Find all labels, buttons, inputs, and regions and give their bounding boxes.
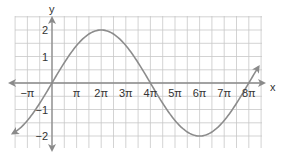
x-axis-label: x	[270, 81, 276, 93]
x-tick-label: 2π	[94, 87, 108, 99]
x-tick-label: 6π	[193, 87, 207, 99]
axes	[10, 18, 264, 150]
x-tick-label: π	[73, 87, 81, 99]
x-tick-label: 7π	[217, 87, 231, 99]
y-tick-label: 2	[42, 24, 48, 36]
x-tick-label: 3π	[119, 87, 133, 99]
x-tick-label: 5π	[168, 87, 182, 99]
x-tick-label: −π	[20, 87, 34, 99]
x-tick-label: 4π	[144, 87, 158, 99]
x-tick-label: 8π	[242, 87, 256, 99]
y-tick-label: −2	[35, 130, 48, 142]
y-axis-label: y	[49, 3, 55, 15]
sine-graph: −ππ2π3π4π5π6π7π8π 21−1−2 x y	[0, 0, 290, 154]
y-tick-label: −1	[35, 104, 48, 116]
y-tick-label: 1	[42, 51, 48, 63]
